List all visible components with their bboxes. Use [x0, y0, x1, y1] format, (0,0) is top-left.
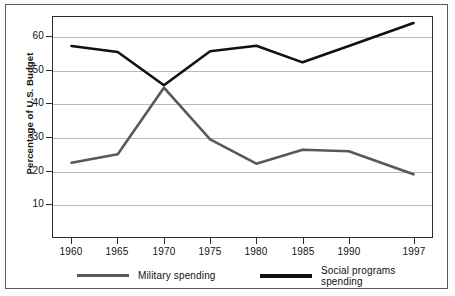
legend-item-social-programs-spending: Social programs spending [260, 265, 396, 287]
series-lines [53, 17, 432, 237]
x-axis-tick [164, 238, 165, 244]
line-military-spending [71, 88, 413, 175]
x-axis-tick-label: 1985 [278, 246, 328, 257]
x-axis-tick [210, 238, 211, 244]
x-axis-tick [414, 238, 415, 244]
x-axis-tick-label: 1990 [324, 246, 374, 257]
y-axis-tick-label: 10 [0, 198, 44, 209]
x-axis-tick [117, 238, 118, 244]
legend-label-social: Social programs spending [321, 265, 396, 287]
legend-item-military-spending: Military spending [77, 270, 216, 281]
y-axis-tick-label: 50 [0, 64, 44, 75]
x-axis-tick-label: 1965 [92, 246, 142, 257]
x-axis-tick [303, 238, 304, 244]
chart-figure: Percentage of U.S. Budget 102030405060 1… [0, 0, 455, 296]
y-axis-tick-label: 40 [0, 97, 44, 108]
legend-label-military: Military spending [138, 270, 216, 281]
legend-swatch-social [260, 274, 312, 278]
chart-legend: Military spending Social programs spendi… [52, 263, 433, 289]
y-axis-tick-label: 60 [0, 30, 44, 41]
x-axis-tick-label: 1980 [231, 246, 281, 257]
x-axis-tick-label: 1975 [185, 246, 235, 257]
plot-area [52, 16, 433, 238]
x-axis-tick [349, 238, 350, 244]
line-social-programs-spending [71, 23, 413, 85]
x-axis-tick-label: 1970 [139, 246, 189, 257]
y-axis-tick-label: 30 [0, 131, 44, 142]
x-axis-tick-label: 1997 [389, 246, 439, 257]
x-axis-tick [71, 238, 72, 244]
legend-swatch-military [77, 274, 129, 277]
x-axis-tick-label: 1960 [46, 246, 96, 257]
x-axis-tick [256, 238, 257, 244]
y-axis-tick-label: 20 [0, 165, 44, 176]
